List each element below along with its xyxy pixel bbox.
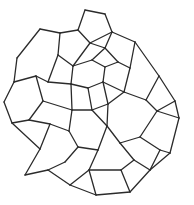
cell-edges — [4, 10, 179, 195]
cell-edge — [14, 58, 17, 82]
cell-edge — [160, 150, 170, 153]
cell-edge — [124, 92, 146, 100]
cell-edge — [25, 170, 48, 175]
cell-edge — [70, 185, 96, 195]
cell-edge — [150, 150, 160, 170]
cell-edge — [107, 126, 120, 143]
cell-edge — [92, 110, 107, 126]
cell-edge — [124, 68, 130, 92]
cell-edge — [69, 110, 72, 131]
cell-edge — [140, 111, 157, 137]
cell-edge — [89, 170, 96, 195]
cell-edge — [120, 137, 140, 143]
cell-edge — [12, 120, 29, 123]
cell-edge — [90, 32, 112, 43]
cell-edge — [157, 111, 179, 118]
cell-edge — [103, 67, 105, 82]
cell-edge — [88, 82, 103, 88]
cell-edge — [175, 101, 179, 118]
cell-edge — [71, 84, 72, 110]
cell-edge — [121, 170, 130, 192]
cell-edge — [108, 92, 124, 104]
cell-edge — [50, 124, 69, 131]
cell-edge — [134, 160, 150, 170]
cell-edge — [40, 29, 60, 33]
cell-edge — [92, 48, 105, 60]
cell-edge — [121, 160, 134, 170]
cell-edge — [43, 101, 72, 110]
cell-edge — [73, 43, 90, 66]
cell-edge — [69, 131, 78, 147]
cell-edge — [78, 10, 85, 30]
cell-edge — [78, 30, 90, 43]
cell-edge — [112, 32, 135, 42]
cell-edge — [40, 124, 50, 149]
cell-edge — [135, 42, 159, 76]
cell-edge — [157, 101, 175, 111]
cell-edge — [14, 76, 36, 82]
cell-edge — [48, 82, 71, 84]
cell-edge — [105, 62, 118, 67]
cell-edge — [71, 66, 73, 84]
cell-edge — [170, 118, 179, 153]
cell-edge — [140, 137, 160, 150]
cell-edge — [17, 29, 40, 58]
cell-edge — [85, 10, 105, 14]
cell-edge — [58, 33, 60, 55]
voronoi-diagram — [0, 0, 194, 205]
cell-edge — [60, 30, 78, 33]
cell-edge — [130, 42, 135, 68]
cell-edge — [36, 76, 43, 101]
cell-edge — [88, 88, 92, 110]
cell-edge — [105, 14, 112, 32]
cell-edge — [4, 82, 14, 102]
cell-edge — [25, 149, 40, 175]
cell-edge — [65, 147, 78, 162]
cell-edge — [12, 123, 40, 149]
cell-edge — [98, 126, 107, 150]
cell-edge — [29, 120, 50, 124]
cell-edge — [4, 102, 12, 123]
cell-edge — [120, 143, 134, 160]
cell-edge — [150, 153, 170, 170]
cell-edge — [90, 43, 105, 48]
cell-edge — [105, 48, 118, 62]
cell-edge — [48, 162, 65, 170]
cell-edge — [130, 170, 150, 192]
cell-edge — [29, 101, 43, 120]
cell-edge — [89, 150, 98, 170]
cell-edge — [146, 76, 159, 100]
cell-edge — [48, 170, 70, 185]
cell-edge — [118, 62, 130, 68]
cell-edge — [92, 60, 105, 67]
cell-edge — [159, 76, 175, 101]
cell-edge — [48, 55, 58, 82]
cell-edge — [103, 82, 108, 104]
cell-edge — [96, 192, 130, 195]
cell-edge — [146, 100, 157, 111]
cell-edge — [103, 82, 124, 92]
cell-edge — [71, 84, 88, 88]
cell-edge — [92, 104, 108, 110]
cell-edge — [70, 170, 89, 185]
cell-edge — [78, 147, 98, 150]
cell-edge — [58, 55, 73, 66]
cell-edge — [107, 104, 108, 126]
